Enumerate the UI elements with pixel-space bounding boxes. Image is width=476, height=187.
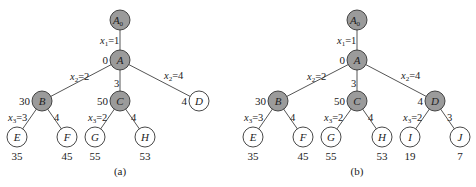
node-j: J7 — [450, 127, 470, 162]
edge-label: 4 — [368, 112, 374, 123]
node-label: D — [430, 95, 439, 107]
node-value: 4 — [418, 95, 424, 107]
edge-label: x1=1 — [99, 35, 119, 48]
node-label: E — [249, 131, 257, 143]
node-h: H53 — [135, 127, 155, 162]
node-value: 50 — [97, 95, 109, 107]
node-value: 45 — [62, 150, 74, 162]
node-label: A — [353, 54, 361, 66]
edge-label: x3=3 — [243, 112, 263, 125]
node-i: I19 — [400, 127, 420, 162]
node-label: C — [116, 95, 124, 107]
node-value: 53 — [140, 150, 152, 162]
node-g: G55 — [321, 127, 341, 162]
node-value: 0 — [340, 54, 346, 66]
caption-a: (a) — [114, 165, 127, 178]
node-value: 30 — [19, 95, 31, 107]
node-value: 4 — [182, 95, 188, 107]
node-label: F — [299, 131, 307, 143]
node-value: 45 — [298, 150, 310, 162]
node-label: G — [327, 131, 335, 143]
node-label: G — [91, 131, 99, 143]
node-e: E35 — [243, 127, 263, 162]
node-value: 35 — [248, 150, 260, 162]
node-value: 7 — [457, 150, 463, 162]
search-tree-figure: x1=1x2=23x2=4x3=34x3=24A0A0B30C50D4E35F4… — [0, 0, 476, 187]
edge-label: 3 — [114, 78, 119, 89]
node-f: F45 — [293, 127, 313, 162]
edge-label: x2=2 — [69, 71, 89, 84]
edge-label: x1=1 — [336, 35, 356, 48]
diagram-svg: x1=1x2=23x2=4x3=34x3=24A0A0B30C50D4E35F4… — [0, 0, 476, 187]
node-value: 0 — [103, 54, 109, 66]
node-a0: A0 — [347, 10, 367, 30]
node-label: F — [63, 131, 71, 143]
node-value: 30 — [255, 95, 267, 107]
edge-label: 3 — [447, 112, 452, 123]
node-label: D — [194, 95, 203, 107]
node-e: E35 — [7, 127, 27, 162]
edge-label: x2=2 — [306, 71, 326, 84]
node-label: A — [116, 54, 124, 66]
node-label: E — [13, 131, 21, 143]
caption-b: (b) — [351, 165, 364, 178]
edge-label: 4 — [54, 112, 60, 123]
edge-label: x3=3 — [7, 112, 27, 125]
node-a0: A0 — [110, 10, 130, 30]
node-label: H — [140, 131, 150, 143]
node-value: 55 — [90, 150, 102, 162]
edge-label: x2=4 — [400, 70, 421, 83]
node-label: C — [353, 95, 361, 107]
node-g: G55 — [85, 127, 105, 162]
edge-a-d — [120, 60, 199, 101]
node-value: 19 — [405, 150, 417, 162]
node-f: F45 — [57, 127, 77, 162]
node-value: 50 — [334, 95, 346, 107]
tree-a: x1=1x2=23x2=4x3=34x3=24A0A0B30C50D4E35F4… — [7, 10, 209, 178]
node-c: C50 — [334, 91, 367, 111]
tree-b: x1=1x2=23x2=4x3=34x3=24x3=23A0A0B30C50D4… — [243, 10, 470, 178]
node-b: B30 — [19, 91, 52, 111]
edge-a-d — [357, 60, 435, 101]
edge-label: 4 — [131, 112, 137, 123]
edge-label: 4 — [290, 112, 296, 123]
node-value: 35 — [12, 150, 24, 162]
node-label: H — [377, 131, 387, 143]
edge-label: x2=4 — [163, 70, 184, 83]
node-value: 53 — [377, 150, 389, 162]
node-h: H53 — [372, 127, 392, 162]
edge-label: 3 — [351, 78, 356, 89]
node-b: B30 — [255, 91, 288, 111]
node-c: C50 — [97, 91, 130, 111]
node-label: B — [275, 95, 282, 107]
edge-label: x3=2 — [323, 112, 343, 125]
node-label: B — [39, 95, 46, 107]
node-value: 55 — [326, 150, 338, 162]
